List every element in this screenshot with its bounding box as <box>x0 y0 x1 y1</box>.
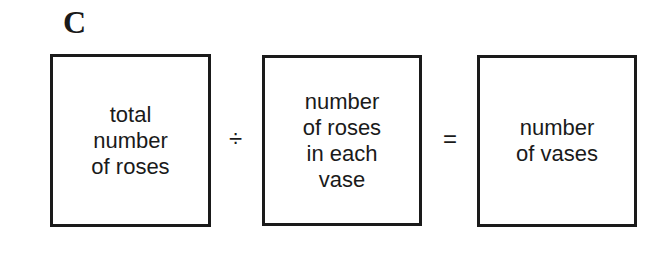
divide-operator: ÷ <box>229 127 242 151</box>
equals-operator: = <box>443 127 457 151</box>
box-text-line: vase <box>303 167 381 193</box>
box-number-of-vases: number of vases <box>477 55 637 227</box>
box-total-roses: total number of roses <box>50 54 211 227</box>
box-text-line: total <box>91 102 169 128</box>
box-text-line: number <box>303 89 381 115</box>
box-text-line: number <box>91 128 169 154</box>
box-text-line: of roses <box>91 154 169 180</box>
box-text-line: of vases <box>516 141 598 167</box>
panel-label: C <box>63 6 86 38</box>
box-text-line: number <box>516 115 598 141</box>
box-roses-per-vase: number of roses in each vase <box>262 55 422 226</box>
box-text-line: in each <box>303 141 381 167</box>
box-text-line: of roses <box>303 115 381 141</box>
